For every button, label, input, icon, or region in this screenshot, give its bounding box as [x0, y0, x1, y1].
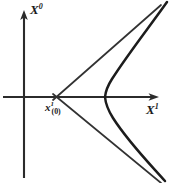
origin-point-label-subscript: (0) [52, 107, 61, 116]
horizontal-axis-label: X1 [146, 103, 159, 116]
horizontal-axis [3, 93, 159, 101]
spacetime-diagram: X0 X1 x1(0) [0, 0, 171, 183]
vertical-axis-label-base: X [30, 2, 39, 17]
vertical-axis-label: X0 [30, 3, 43, 16]
vertical-axis [20, 10, 28, 178]
horizontal-axis-label-base: X [146, 102, 155, 117]
diagram-canvas [0, 0, 171, 183]
origin-point-label: x1(0) [45, 102, 61, 113]
hyperbola-branch [105, 2, 167, 181]
horizontal-axis-label-exponent: 1 [155, 102, 159, 111]
vertical-axis-label-exponent: 0 [39, 2, 43, 11]
